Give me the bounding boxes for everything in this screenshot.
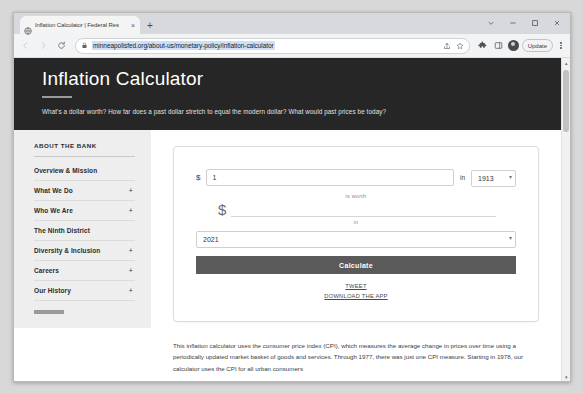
- result-output-field[interactable]: [231, 202, 496, 217]
- body-copy: This inflation calculator uses the consu…: [173, 340, 539, 374]
- calculator-input-row: $ in 1913 ▾: [196, 167, 516, 187]
- extensions-puzzle-icon[interactable]: [476, 39, 489, 52]
- to-year-label: in: [196, 219, 516, 225]
- sidebar-item-diversity-and-inclusion[interactable]: Diversity & Inclusion +: [34, 241, 135, 261]
- sidebar-item-label: Diversity & Inclusion: [34, 247, 100, 254]
- calculator-links: TWEET DOWNLOAD THE APP: [196, 283, 516, 299]
- page-viewport: Inflation Calculator What's a dollar wor…: [14, 58, 570, 381]
- lock-icon: [81, 42, 88, 49]
- in-label: in: [460, 174, 465, 181]
- scroll-up-arrow-icon[interactable]: ▴: [562, 58, 570, 67]
- back-arrow-icon[interactable]: [18, 38, 33, 53]
- expand-icon[interactable]: +: [129, 287, 135, 294]
- close-icon[interactable]: [546, 14, 568, 32]
- year-to-select[interactable]: 2021: [196, 231, 516, 248]
- page-hero: Inflation Calculator What's a dollar wor…: [14, 58, 561, 130]
- tweet-link[interactable]: TWEET: [196, 283, 516, 289]
- browser-tab[interactable]: Inflation Calculator | Federal Res ×: [20, 16, 140, 34]
- sidebar-item-label: Who We Are: [34, 207, 73, 214]
- star-icon[interactable]: [456, 42, 464, 50]
- address-bar-url: minneapolisfed.org/about-us/monetary-pol…: [92, 41, 275, 50]
- sidebar-nav: ABOUT THE BANK Overview & Mission What W…: [14, 130, 151, 328]
- sidebar-item-who-we-are[interactable]: Who We Are +: [34, 201, 135, 221]
- address-bar[interactable]: minneapolisfed.org/about-us/monetary-pol…: [75, 38, 470, 54]
- sidebar-item-the-ninth-district[interactable]: The Ninth District: [34, 221, 135, 241]
- sidebar-item-label: What We Do: [34, 187, 73, 194]
- expand-icon[interactable]: +: [129, 247, 135, 254]
- dollar-sign-label: $: [196, 173, 200, 182]
- web-page: Inflation Calculator What's a dollar wor…: [14, 58, 561, 381]
- forward-arrow-icon[interactable]: [36, 38, 51, 53]
- three-dot-menu-icon[interactable]: [556, 42, 566, 49]
- new-tab-button[interactable]: +: [147, 21, 153, 31]
- browser-window: Inflation Calculator | Federal Res × +: [13, 12, 571, 382]
- hero-subtitle: What's a dollar worth? How far does a pa…: [42, 108, 533, 116]
- sidebar-accent-bar: [34, 310, 64, 314]
- sidebar-item-our-history[interactable]: Our History +: [34, 281, 135, 301]
- tab-strip: Inflation Calculator | Federal Res × +: [14, 13, 570, 34]
- share-icon[interactable]: [443, 42, 451, 50]
- expand-icon[interactable]: +: [129, 267, 135, 274]
- scrollbar-thumb[interactable]: [563, 70, 569, 132]
- sidebar-item-careers[interactable]: Careers +: [34, 261, 135, 281]
- reload-icon[interactable]: [54, 38, 69, 53]
- tab-title: Inflation Calculator | Federal Res: [35, 22, 127, 28]
- hero-divider: [42, 96, 72, 98]
- sidebar-item-overview-and-mission[interactable]: Overview & Mission: [34, 161, 135, 181]
- year-to-wrapper: 2021 ▾: [196, 228, 516, 248]
- result-dollar-sign: $: [218, 202, 226, 217]
- sidebar-item-label: Overview & Mission: [34, 167, 97, 174]
- side-panel-icon[interactable]: [492, 39, 505, 52]
- minimize-icon[interactable]: [502, 14, 524, 32]
- sidebar-heading: ABOUT THE BANK: [34, 142, 135, 157]
- browser-toolbar: minneapolisfed.org/about-us/monetary-pol…: [14, 34, 570, 58]
- globe-icon: [24, 21, 32, 29]
- sidebar-item-label: The Ninth District: [34, 227, 90, 234]
- chevron-down-icon[interactable]: [480, 14, 502, 32]
- address-bar-actions: [439, 42, 464, 50]
- page-content: ABOUT THE BANK Overview & Mission What W…: [14, 130, 561, 381]
- profile-avatar[interactable]: [508, 40, 519, 51]
- sidebar-item-label: Careers: [34, 267, 59, 274]
- expand-icon[interactable]: +: [129, 187, 135, 194]
- body-paragraph: This inflation calculator uses the consu…: [173, 340, 539, 374]
- expand-icon[interactable]: +: [129, 207, 135, 214]
- scroll-down-arrow-icon[interactable]: ▾: [562, 372, 570, 381]
- is-worth-label: is worth: [196, 193, 516, 199]
- update-button[interactable]: Update: [522, 39, 553, 52]
- calculator-result-row: $: [196, 202, 516, 217]
- main-column: $ in 1913 ▾ is worth: [151, 130, 561, 374]
- inflation-calculator-card: $ in 1913 ▾ is worth: [173, 146, 539, 322]
- download-app-link[interactable]: DOWNLOAD THE APP: [196, 293, 516, 299]
- maximize-icon[interactable]: [524, 14, 546, 32]
- amount-input[interactable]: [206, 169, 453, 186]
- window-controls: [480, 14, 568, 32]
- tab-close-icon[interactable]: ×: [130, 22, 136, 29]
- calculate-button[interactable]: Calculate: [196, 256, 516, 274]
- page-scrollbar[interactable]: ▴ ▾: [561, 58, 570, 381]
- year-from-select[interactable]: 1913: [471, 170, 516, 187]
- year-from-wrapper: 1913 ▾: [471, 167, 516, 187]
- sidebar-item-what-we-do[interactable]: What We Do +: [34, 181, 135, 201]
- sidebar-item-label: Our History: [34, 287, 71, 294]
- page-title: Inflation Calculator: [42, 68, 533, 91]
